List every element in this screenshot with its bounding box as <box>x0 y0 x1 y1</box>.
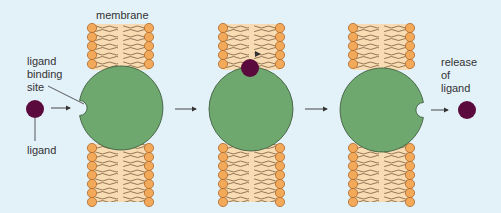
receptor-protein-stage-1 <box>80 66 163 150</box>
receptor-protein-stage-2 <box>209 67 293 151</box>
label-line: ligand <box>441 82 477 95</box>
membrane-label: membrane <box>96 9 149 22</box>
ligand-binding-site-label: ligand binding site <box>27 55 62 94</box>
release-of-ligand-label: release of ligand <box>441 56 477 95</box>
diagram-canvas <box>0 0 501 213</box>
label-line: release <box>441 56 477 69</box>
label-line: binding <box>27 68 62 81</box>
ligand-label: ligand <box>27 144 56 157</box>
receptor-protein-stage-3 <box>340 68 423 152</box>
ligand-molecule-released <box>458 101 476 119</box>
label-line: ligand <box>27 55 62 68</box>
ligand-molecule-bound <box>241 59 259 77</box>
label-line: site <box>27 81 62 94</box>
ligand-molecule-1 <box>26 100 44 118</box>
label-line: of <box>441 69 477 82</box>
